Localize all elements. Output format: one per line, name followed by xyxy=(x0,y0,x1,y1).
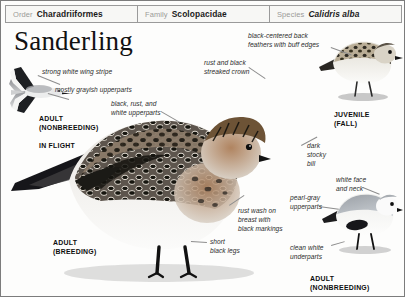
plate-label-adult-nonbreeding: ADULT (NONBREEDING) xyxy=(310,274,370,293)
field-guide-page: Order Charadriiformes Family Scolopacida… xyxy=(0,0,405,297)
callout-pearl-gray: pearl-gray upperparts xyxy=(290,193,322,211)
plate-label-in-flight: IN FLIGHT xyxy=(39,141,75,150)
taxonomy-header: Order Charadriiformes Family Scolopacida… xyxy=(5,5,402,23)
order-value: Charadriiformes xyxy=(37,9,103,19)
callout-white-face: white face and neck xyxy=(336,175,366,193)
family-value: Scolopacidae xyxy=(172,9,227,19)
species-label: Species xyxy=(277,10,304,19)
taxonomy-field-species: Species Calidris alba xyxy=(269,6,401,22)
plate-label-adult-breeding: ADULT (BREEDING) xyxy=(53,238,96,257)
taxonomy-field-order: Order Charadriiformes xyxy=(6,6,137,22)
bird-adult-nonbreeding xyxy=(321,187,403,259)
callout-rust-wash: rust wash on breast with black markings xyxy=(238,206,283,233)
callout-back-feathers: black-centered back feathers with buff e… xyxy=(248,31,319,49)
species-value: Calidris alba xyxy=(308,9,359,19)
callout-stocky-bill: dark stocky bill xyxy=(307,141,326,168)
order-label: Order xyxy=(13,10,33,19)
leader-streaked-crown xyxy=(248,67,265,79)
family-label: Family xyxy=(145,10,168,19)
plate-label-in-flight-age: ADULT (NONBREEDING) xyxy=(39,114,99,133)
callout-grayish-upperparts: mostly grayish upperparts xyxy=(55,85,132,94)
callout-black-rust-white: black, rust, and white upperparts xyxy=(111,99,161,117)
page-title: Sanderling xyxy=(14,26,133,57)
taxonomy-field-family: Family Scolopacidae xyxy=(137,6,269,22)
callout-streaked-crown: rust and black streaked crown xyxy=(204,58,249,76)
plate-label-juvenile: JUVENILE (FALL) xyxy=(334,110,370,129)
callout-wing-stripe: strong white wing stripe xyxy=(42,67,112,76)
callout-short-legs: short black legs xyxy=(210,237,240,255)
callout-clean-white: clean white underparts xyxy=(290,243,324,261)
